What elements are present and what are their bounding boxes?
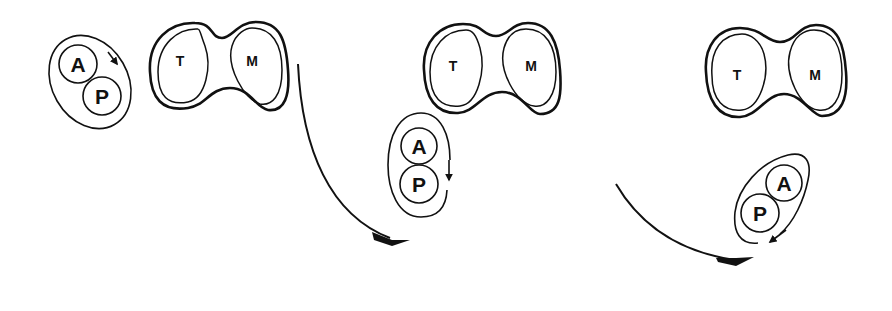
curved-arrow-icon xyxy=(616,184,735,260)
m-label: M xyxy=(246,53,258,69)
tm-cell-2: T M xyxy=(424,23,561,114)
panel-1: A P T M xyxy=(33,21,289,144)
rotation-arrow-icon xyxy=(770,230,786,242)
a-label: A xyxy=(411,135,426,158)
cell-outline xyxy=(706,25,847,117)
p-label: P xyxy=(412,173,426,196)
diagram-canvas: A P T M T M A P xyxy=(0,0,892,311)
panel-3: T M A P xyxy=(706,25,847,243)
a-label: A xyxy=(70,53,85,76)
m-label: M xyxy=(809,67,821,83)
t-label: T xyxy=(733,67,742,83)
t-label: T xyxy=(176,53,185,69)
curved-arrow-icon xyxy=(298,64,390,238)
p-label: P xyxy=(753,202,767,225)
arrowhead-icon xyxy=(716,257,754,266)
tm-cell-1: T M xyxy=(150,22,289,110)
a-label: A xyxy=(776,172,791,195)
panel-2: T M A P xyxy=(388,23,561,217)
ap-pair-ellipse-2: A P xyxy=(388,113,450,217)
p-label: P xyxy=(95,85,109,108)
transition-arrow-2 xyxy=(616,184,754,266)
arrowhead-icon xyxy=(372,232,410,246)
transition-arrow-1 xyxy=(298,64,410,246)
m-label: M xyxy=(525,58,537,74)
t-label: T xyxy=(449,58,458,74)
cell-outline xyxy=(150,22,289,110)
tm-cell-3: T M xyxy=(706,25,847,117)
ap-pair-ellipse-3: A P xyxy=(735,154,810,243)
ap-pair-ellipse-1: A P xyxy=(33,21,148,144)
